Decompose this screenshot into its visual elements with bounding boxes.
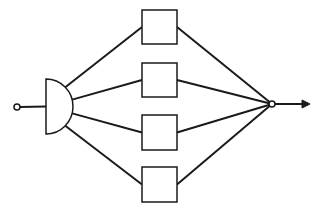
- branch-in-line-4: [65, 126, 142, 185]
- branch-out-line-3: [177, 104, 272, 133]
- branch-in-line-2: [72, 80, 142, 100]
- input-node-icon: [14, 104, 20, 110]
- block-1: [142, 10, 177, 44]
- splitter-shape: [46, 79, 73, 134]
- arrowhead-icon: [302, 100, 310, 108]
- input-line: [20, 107, 46, 108]
- branch-in-line-3: [72, 113, 142, 132]
- parallel-block-diagram: [0, 0, 325, 213]
- block-3: [142, 115, 177, 150]
- branch-in-line-1: [65, 27, 142, 87]
- block-4: [142, 167, 177, 202]
- block-2: [142, 63, 177, 97]
- output-node-icon: [269, 101, 275, 107]
- branch-out-line-4: [177, 104, 272, 185]
